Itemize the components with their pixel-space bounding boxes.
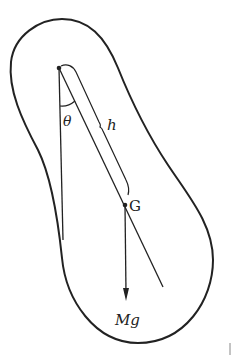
pivot-point: [57, 66, 62, 71]
gravity-arrow-shaft: [125, 205, 126, 293]
body-outline: [11, 19, 213, 343]
theta-arc: [60, 101, 75, 106]
h-label: h: [107, 116, 117, 134]
h-brace: [61, 65, 129, 195]
vertical-reference-line: [59, 68, 63, 240]
pendulum-diagram: θ h G Mg: [0, 0, 231, 355]
gravity-arrow-head: [123, 288, 129, 301]
mg-label: Mg: [114, 311, 140, 329]
g-label: G: [129, 197, 141, 215]
theta-label: θ: [63, 113, 72, 129]
